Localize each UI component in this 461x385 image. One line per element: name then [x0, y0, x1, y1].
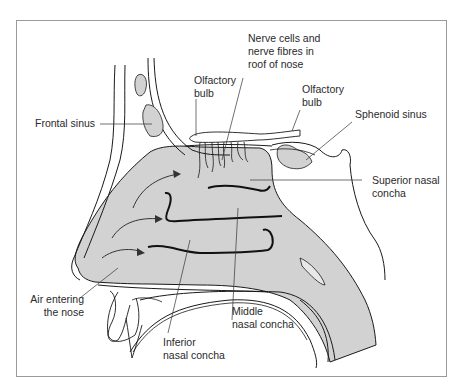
label-olfactory-bulb-right: Olfactory bulb — [302, 83, 344, 109]
palate-lower — [140, 291, 268, 300]
frontal-sinus — [143, 105, 163, 137]
label-inferior-concha: Inferior nasal concha — [163, 336, 225, 362]
label-olfactory-bulb-left: Olfactory bulb — [194, 74, 236, 100]
olfactory-bulb — [190, 130, 300, 142]
label-superior-concha: Superior nasal concha — [372, 174, 440, 200]
small-sinus — [135, 74, 147, 95]
label-frontal-sinus: Frontal sinus — [35, 117, 95, 130]
leader-sphenoid-sinus — [306, 122, 352, 160]
nostril-outline — [108, 291, 130, 341]
cribriform-plate — [185, 145, 272, 147]
label-nerve-cells: Nerve cells and nerve fibres in roof of … — [248, 32, 320, 71]
label-middle-concha: Middle nasal concha — [232, 305, 294, 331]
label-sphenoid-sinus: Sphenoid sinus — [355, 108, 427, 121]
label-air-entering: Air entering the nose — [26, 293, 84, 319]
leader-olfactory-bulb-right — [292, 110, 300, 131]
nasal-cavity — [75, 146, 376, 362]
